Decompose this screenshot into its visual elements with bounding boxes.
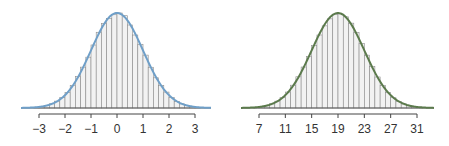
x-tick-label: 1 <box>140 122 147 136</box>
histogram-bar <box>91 45 96 108</box>
histogram-bar <box>301 67 306 108</box>
x-tick-label: 15 <box>305 122 319 136</box>
x-axis: −3−2−10123 <box>32 114 199 136</box>
histogram-bars <box>254 14 423 108</box>
histogram-bar <box>338 14 343 108</box>
histogram-bar <box>354 32 359 108</box>
histogram-bar <box>327 19 332 108</box>
histogram-bar <box>101 23 106 108</box>
x-tick-label: 3 <box>192 122 199 136</box>
x-tick-label: 11 <box>279 122 292 136</box>
histogram-bar <box>322 26 327 108</box>
histogram-bars <box>34 13 200 108</box>
histogram-bar <box>312 45 317 108</box>
histogram-bar <box>317 35 322 108</box>
x-tick-label: 0 <box>114 122 121 136</box>
histogram-bar <box>117 13 122 108</box>
x-tick-label: 23 <box>358 122 372 136</box>
x-tick-label: 19 <box>331 122 345 136</box>
right-chart-normal-mean-19: 7111519232731 <box>241 13 434 136</box>
histogram-bar <box>122 16 127 108</box>
x-tick-label: −2 <box>58 122 72 136</box>
histogram-bar <box>107 19 112 108</box>
x-tick-label: 27 <box>384 122 398 136</box>
histogram-bar <box>81 67 86 108</box>
chart-canvas: −3−2−10123 7111519232731 <box>0 0 449 146</box>
histogram-bar <box>148 67 153 108</box>
histogram-bar <box>96 32 101 108</box>
x-tick-label: −1 <box>84 122 98 136</box>
histogram-bar <box>112 15 117 108</box>
histogram-bar <box>333 15 338 108</box>
histogram-bar <box>359 43 364 108</box>
histogram-bar <box>133 35 138 108</box>
histogram-bar <box>343 17 348 108</box>
histogram-bar <box>127 25 132 108</box>
x-axis: 7111519232731 <box>256 114 424 136</box>
x-tick-label: −3 <box>32 122 46 136</box>
histogram-bar <box>364 55 369 108</box>
histogram-bar <box>349 23 354 108</box>
histogram-bar <box>153 78 158 108</box>
x-tick-label: 7 <box>256 122 263 136</box>
histogram-bar <box>86 57 91 108</box>
x-tick-label: 31 <box>410 122 424 136</box>
histogram-bar <box>143 55 148 108</box>
left-chart-standard-normal: −3−2−10123 <box>21 13 211 136</box>
x-tick-label: 2 <box>166 122 173 136</box>
histogram-bar <box>306 56 311 108</box>
histogram-bar <box>138 44 143 108</box>
